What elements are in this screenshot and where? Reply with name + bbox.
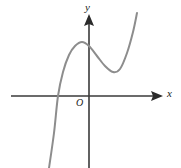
cubic-curve	[49, 13, 137, 168]
graph-figure: y x O	[0, 0, 181, 168]
origin-label: O	[76, 98, 83, 108]
coordinate-plane-canvas	[0, 0, 181, 168]
x-axis-label: x	[167, 88, 172, 99]
x-axis-group	[11, 91, 163, 101]
y-axis-group	[84, 14, 94, 168]
y-axis-label: y	[85, 2, 90, 13]
